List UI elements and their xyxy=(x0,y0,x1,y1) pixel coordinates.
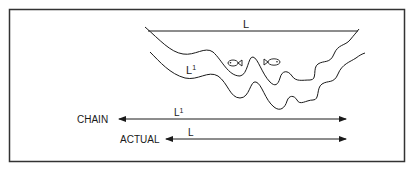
chain-length-arrow: CHAIN L1 xyxy=(77,107,346,125)
actual-length-arrow: ACTUAL L xyxy=(120,127,346,145)
upper-riverbed-profile xyxy=(145,27,359,85)
chain-vs-actual-diagram: L L1 CHAIN L1 ACTUAL L xyxy=(0,0,412,172)
surface-length-label: L xyxy=(243,18,249,30)
chain-length-label: L1 xyxy=(174,107,184,118)
upper-profile-label: L1 xyxy=(186,64,196,76)
actual-length-label: L xyxy=(188,127,194,138)
fish-icon xyxy=(228,60,242,66)
fish-icon xyxy=(264,59,280,65)
chain-label: CHAIN xyxy=(77,114,108,125)
actual-label: ACTUAL xyxy=(120,134,160,145)
lower-riverbed-profile xyxy=(150,52,365,109)
